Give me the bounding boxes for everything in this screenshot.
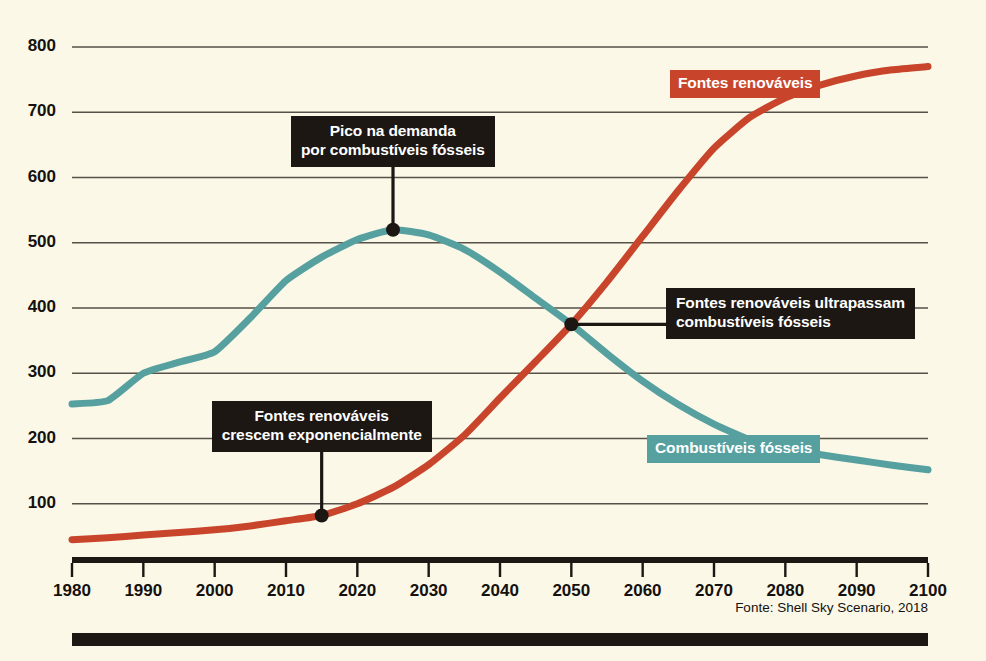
y-axis-tick-800: 800 (10, 36, 56, 56)
series-label-fossil-fuels: Combustíveis fósseis (647, 435, 820, 463)
x-axis-tick-1990: 1990 (108, 581, 178, 601)
x-axis-tick-2000: 2000 (180, 581, 250, 601)
annotation-renewables-exponential-growth: Fontes renováveis crescem exponencialmen… (212, 401, 432, 452)
x-axis-tick-2100: 2100 (893, 581, 963, 601)
bottom-rule-bar (72, 633, 928, 646)
x-axis (72, 557, 928, 577)
x-axis-tick-2010: 2010 (251, 581, 321, 601)
x-axis-tick-2070: 2070 (679, 581, 749, 601)
x-axis-tick-2090: 2090 (822, 581, 892, 601)
x-axis-tick-1980: 1980 (37, 581, 107, 601)
y-axis-tick-200: 200 (10, 428, 56, 448)
annotation-leaders (315, 163, 666, 522)
series-line-fossil (72, 230, 928, 470)
annotation-point-growth (315, 508, 329, 522)
x-axis-tick-2030: 2030 (394, 581, 464, 601)
x-axis-tick-2060: 2060 (608, 581, 678, 601)
series-label-renewables: Fontes renováveis (670, 70, 820, 98)
annotation-point-crossover (564, 317, 578, 331)
y-axis-tick-600: 600 (10, 167, 56, 187)
annotation-renewables-overtake-fossil: Fontes renováveis ultrapassam combustíve… (666, 288, 915, 339)
y-axis-tick-700: 700 (10, 101, 56, 121)
y-axis-tick-100: 100 (10, 493, 56, 513)
x-axis-tick-2040: 2040 (465, 581, 535, 601)
x-axis-tick-2050: 2050 (536, 581, 606, 601)
source-attribution: Fonte: Shell Sky Scenario, 2018 (735, 600, 928, 615)
x-axis-tick-2080: 2080 (750, 581, 820, 601)
annotation-peak-fossil-demand: Pico na demanda por combustíveis fósseis (291, 116, 495, 167)
y-axis-tick-500: 500 (10, 232, 56, 252)
chart-container: 100200300400500600700800 198019902000201… (0, 0, 986, 661)
annotation-point-peak (386, 223, 400, 237)
y-axis-tick-400: 400 (10, 297, 56, 317)
x-axis-tick-2020: 2020 (322, 581, 392, 601)
y-axis-tick-300: 300 (10, 362, 56, 382)
